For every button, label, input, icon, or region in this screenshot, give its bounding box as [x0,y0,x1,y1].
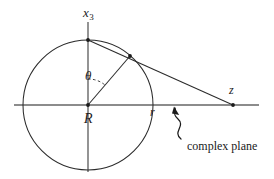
radius-label-r: r [150,106,155,118]
axis-label-x3-subscript: 3 [89,12,94,22]
origin-point [86,103,90,107]
projection-ray [88,40,233,105]
figure-canvas: x3 θ R r z complex plane [0,0,274,179]
axis-label-x3-base: x [83,5,89,20]
radius-line [88,56,130,105]
angle-label-theta: θ [85,69,91,82]
annotation-complex-plane: complex plane [187,140,257,152]
axis-label-x3: x3 [83,6,94,22]
point-label-z: z [229,84,234,96]
north-pole-point [86,38,90,42]
surface-point [128,54,132,58]
annotation-arrowhead-icon [172,107,179,116]
z-point [231,103,235,107]
radius-label-R: R [84,112,93,126]
